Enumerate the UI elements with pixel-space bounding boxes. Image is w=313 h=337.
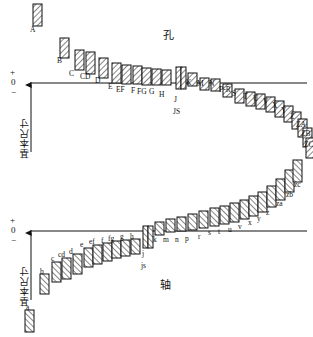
zone-label: S	[232, 90, 236, 98]
tolerance-zone	[112, 241, 121, 258]
tolerance-zone	[52, 262, 61, 282]
tolerance-zone	[40, 274, 49, 294]
tolerance-zone	[188, 214, 197, 230]
axis-zero-hole: 0	[11, 78, 16, 87]
zone-label: s	[208, 229, 211, 237]
zone-label: m	[163, 236, 169, 244]
zone-label: x	[248, 219, 252, 227]
zone-label: T	[243, 93, 248, 101]
title-shaft: 轴	[160, 280, 171, 291]
zone-label: N	[209, 80, 214, 88]
tolerance-zone	[249, 196, 258, 216]
zone-label: F	[131, 87, 135, 95]
zone-label: ef	[89, 238, 95, 246]
tolerance-zones-hole	[33, 4, 313, 158]
tolerance-zone	[25, 310, 34, 332]
zone-label: H	[159, 91, 164, 99]
zone-label: JS	[173, 108, 180, 116]
zone-label: fg	[108, 235, 114, 243]
tolerance-zone	[122, 65, 131, 84]
axis-label-hole: 基本尺寸	[20, 98, 30, 158]
zone-label: P-R	[219, 86, 231, 94]
zone-label: G	[149, 88, 154, 96]
tolerance-zone	[93, 245, 102, 264]
tolerance-zone	[143, 226, 148, 248]
zone-label: f	[101, 237, 104, 245]
tolerance-zone	[166, 219, 175, 232]
zone-label: d	[69, 248, 73, 256]
zone-label: J	[174, 96, 177, 104]
tolerance-zone-diagram: ABCCDDEEFFFGGHJJSKMNP-RSTUVXYZZAZBZC abc…	[0, 0, 313, 337]
zone-label: t	[218, 228, 220, 236]
tolerance-zone	[131, 239, 140, 254]
tolerance-zone	[86, 52, 95, 74]
tolerance-zone	[240, 200, 249, 219]
tolerance-zone	[73, 254, 82, 274]
zone-label: y	[257, 215, 261, 223]
zone-label: V	[263, 98, 268, 106]
axis-minus-hole: −	[11, 88, 16, 97]
zone-label: cd	[58, 251, 65, 259]
zone-label: z	[266, 209, 269, 217]
zone-label: FG	[137, 88, 147, 96]
zone-label: D	[95, 77, 100, 85]
zone-label: k	[153, 236, 157, 244]
tolerance-zones-shaft	[25, 160, 302, 332]
zone-label: v	[238, 223, 242, 231]
tolerance-zone	[230, 203, 239, 222]
axis-plus-hole: +	[10, 68, 15, 77]
zone-label: h	[130, 233, 134, 241]
zone-label: Z	[290, 113, 295, 121]
zone-label: e	[80, 241, 83, 249]
zone-label: C	[69, 70, 74, 78]
axis-plus-shaft: +	[10, 216, 15, 225]
zone-label: U	[253, 95, 258, 103]
zone-label: E	[108, 83, 113, 91]
tolerance-zone	[177, 217, 186, 231]
zone-label: ZA	[296, 121, 306, 129]
zone-label: X	[272, 102, 277, 110]
axis-zero-shaft: 0	[11, 226, 16, 235]
tolerance-zone	[133, 66, 142, 84]
zone-label: zc	[294, 181, 301, 189]
tolerance-zone	[142, 68, 151, 85]
tolerance-zone	[293, 160, 302, 182]
tolerance-zone	[199, 211, 208, 228]
zone-label: B	[57, 57, 62, 65]
zone-label: p	[185, 235, 189, 243]
tolerance-zone	[75, 50, 84, 70]
zone-label: u	[228, 226, 232, 234]
tolerance-zone	[210, 208, 219, 226]
tolerance-zone	[60, 38, 69, 58]
axis-label-shaft: 基本尺寸	[20, 246, 30, 306]
tolerance-zone	[155, 222, 164, 235]
zone-label: CD	[80, 73, 90, 81]
zone-label: g	[120, 233, 124, 241]
tolerance-zone	[84, 248, 93, 267]
tolerance-zone	[112, 63, 121, 83]
zone-label: r	[198, 233, 201, 241]
tolerance-zone	[152, 69, 161, 85]
zone-label: za	[276, 200, 283, 208]
tolerance-zone	[33, 4, 42, 26]
tolerance-zone	[276, 179, 285, 200]
zone-label: K	[186, 79, 191, 87]
zone-label: c	[51, 255, 54, 263]
tolerance-zone	[176, 67, 181, 89]
zone-label: M	[197, 80, 204, 88]
zone-label: ZB	[301, 130, 311, 138]
zone-label: n	[175, 236, 179, 244]
tolerance-zone	[267, 186, 276, 207]
tolerance-zone	[62, 258, 71, 279]
zone-label: A	[30, 26, 35, 34]
tolerance-zone	[121, 240, 130, 256]
zone-label: Y	[281, 107, 286, 115]
zone-label: EF	[116, 86, 125, 94]
zone-label: js	[141, 262, 146, 270]
tolerance-zone	[103, 243, 112, 261]
diagram-canvas	[0, 0, 313, 337]
axis-minus-shaft: −	[11, 236, 16, 245]
zone-label: zb	[286, 191, 293, 199]
zone-label: ZC	[304, 141, 313, 149]
zone-label: b	[40, 268, 44, 276]
